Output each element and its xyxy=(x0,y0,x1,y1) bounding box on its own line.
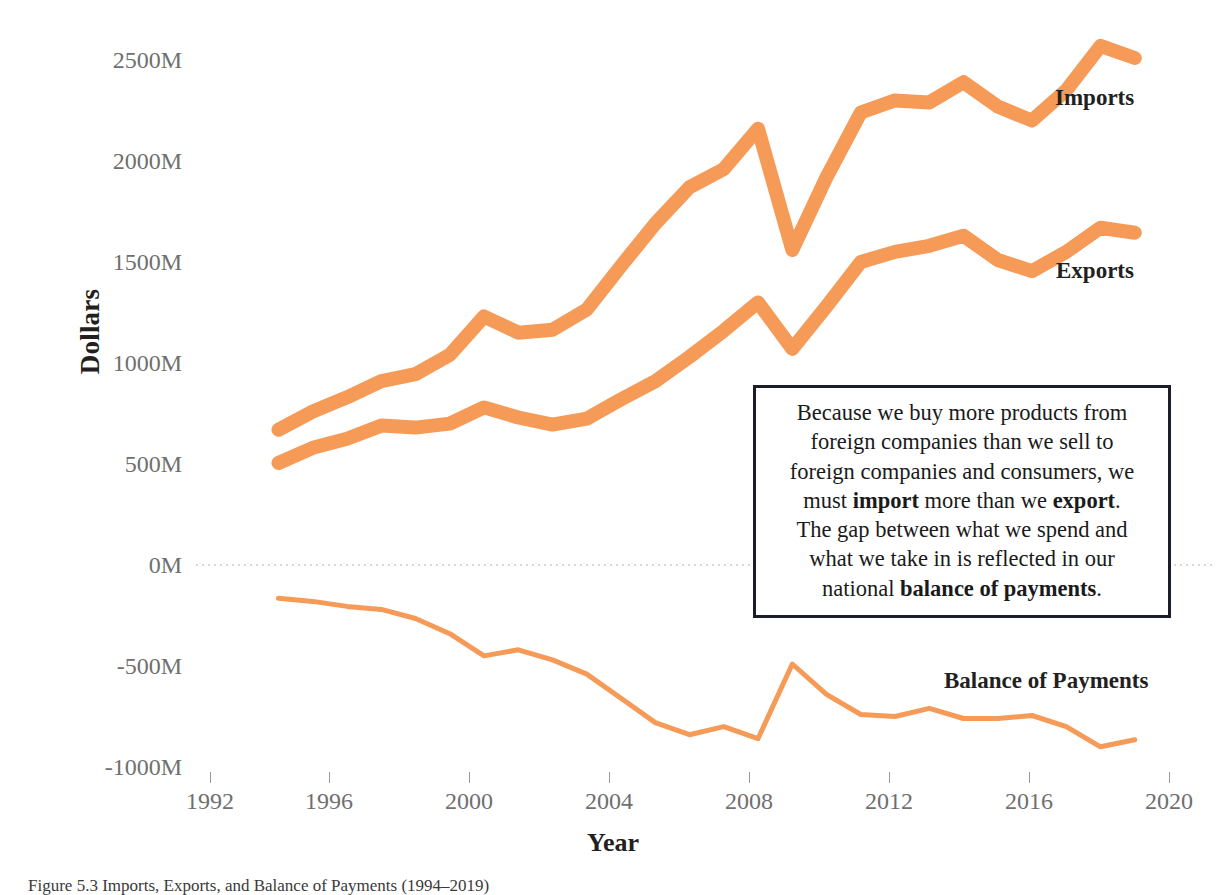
series-line-imports xyxy=(279,46,1135,430)
figure-container: Dollars 2500M 2000M 1500M 1000M 500M 0M … xyxy=(0,0,1226,895)
annotation-line-6: what we take in is reflected in our xyxy=(768,544,1156,573)
annotation-text: . xyxy=(1096,576,1102,601)
annotation-line-4: must import more than we export. xyxy=(768,486,1156,515)
annotation-line-5: The gap between what we spend and xyxy=(768,515,1156,544)
series-label-balance-of-payments: Balance of Payments xyxy=(944,668,1148,694)
annotation-line-3: foreign companies and consumers, we xyxy=(768,457,1156,486)
annotation-text: . xyxy=(1115,488,1121,513)
series-label-imports: Imports xyxy=(1055,85,1134,111)
figure-caption: Figure 5.3 Imports, Exports, and Balance… xyxy=(28,876,489,895)
annotation-text: national xyxy=(822,576,900,601)
annotation-text: must xyxy=(803,488,852,513)
series-label-exports: Exports xyxy=(1056,258,1134,284)
annotation-bold-balance-of-payments: balance of payments xyxy=(900,576,1096,601)
annotation-text: more than we xyxy=(919,488,1053,513)
annotation-line-2: foreign companies than we sell to xyxy=(768,427,1156,456)
annotation-line-7: national balance of payments. xyxy=(768,574,1156,603)
annotation-bold-export: export xyxy=(1053,488,1115,513)
annotation-callout-box: Because we buy more products from foreig… xyxy=(753,385,1171,618)
annotation-line-1: Because we buy more products from xyxy=(768,398,1156,427)
annotation-bold-import: import xyxy=(853,488,919,513)
